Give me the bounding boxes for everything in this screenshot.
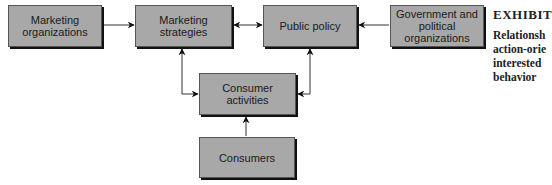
arrow-activities-policy (298, 49, 310, 94)
box-label: Consumer activities (204, 82, 291, 106)
caption-line: Relationsh (493, 28, 552, 42)
caption-line: behavior (493, 70, 552, 84)
box-label: Public policy (279, 20, 340, 32)
box-label: Government and political organizations (395, 8, 479, 44)
exhibit-caption: EXHIBIT Relationsh action-orie intereste… (493, 7, 552, 84)
box-label: Marketing strategies (140, 14, 227, 38)
box-consumer-activities: Consumer activities (199, 73, 296, 115)
box-public-policy: Public policy (263, 5, 357, 47)
box-label: Marketing organizations (13, 14, 97, 38)
exhibit-label: EXHIBIT (493, 7, 552, 23)
box-marketing-strategies: Marketing strategies (135, 5, 232, 47)
box-marketing-organizations: Marketing organizations (8, 5, 102, 47)
caption-line: interested (493, 56, 552, 70)
caption-line: action-orie (493, 42, 552, 56)
box-label: Consumers (219, 152, 275, 164)
box-government-political-organizations: Government and political organizations (390, 5, 484, 47)
box-consumers: Consumers (199, 137, 295, 178)
arrow-activities-strategies (182, 49, 198, 94)
